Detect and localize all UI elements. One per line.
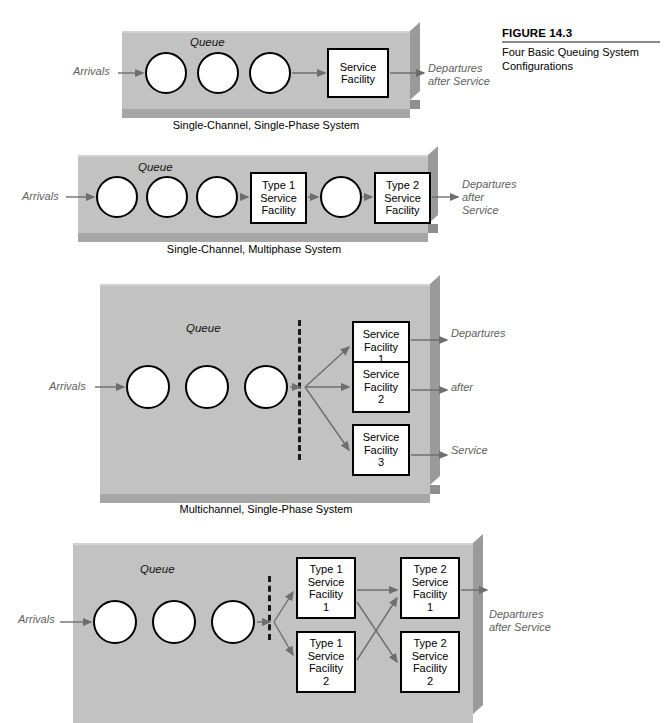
flow-arrows-4 [0, 0, 670, 700]
